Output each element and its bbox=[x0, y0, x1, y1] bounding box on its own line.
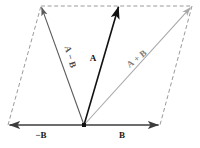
label-b: B bbox=[119, 131, 125, 140]
vector-a-arrow bbox=[84, 7, 119, 125]
label-negative-b: −B bbox=[35, 131, 47, 140]
vector-diagram-canvas bbox=[0, 0, 200, 148]
vector-parallelogram-figure: A − B A A + B −B B bbox=[0, 0, 200, 148]
parallelogram-left-edge bbox=[8, 6, 41, 125]
origin-point-marker bbox=[82, 123, 86, 127]
vector-a-plus-b-arrow bbox=[84, 8, 190, 125]
label-a: A bbox=[90, 54, 97, 63]
